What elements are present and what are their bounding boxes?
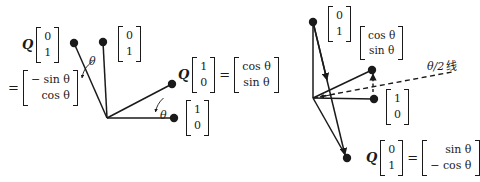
q-e2-column-vector: 0 1 bbox=[36, 27, 59, 63]
half-angle-suffix-text: 线 bbox=[446, 60, 457, 73]
half-angle-line-label: θ/2线 bbox=[427, 60, 457, 72]
left-upper-theta-label: θ bbox=[89, 56, 96, 67]
left-e1-dot bbox=[170, 114, 178, 122]
left-q-e1-equation: Q 1 0 = cos θ sin θ bbox=[178, 57, 279, 93]
equals-sign: = bbox=[407, 151, 418, 164]
left-e2-dot bbox=[99, 38, 107, 46]
right-origin-pointer-arrow bbox=[320, 94, 335, 97]
left-q-e2-label: Q 0 1 bbox=[22, 27, 59, 63]
left-e2-label: 0 1 bbox=[118, 26, 141, 62]
e1-column-vector: 1 0 bbox=[386, 89, 409, 125]
right-q-e2-dot bbox=[343, 154, 351, 162]
q-symbol: Q bbox=[22, 38, 33, 51]
q-symbol: Q bbox=[178, 68, 189, 81]
right-q-e1-result-label: cos θ sin θ bbox=[360, 26, 403, 60]
right-q-e2-equation: Q 0 1 = sin θ − cos θ bbox=[366, 140, 480, 176]
q-e2-column-vector: 0 1 bbox=[380, 140, 403, 176]
left-e2-axis-line bbox=[103, 42, 107, 118]
right-q-e2-line bbox=[313, 98, 347, 158]
q-symbol: Q bbox=[366, 151, 377, 164]
e2-column-vector: 0 1 bbox=[118, 26, 141, 62]
left-e1-label: 1 0 bbox=[186, 100, 209, 136]
right-e2-label: 0 1 bbox=[328, 6, 351, 42]
right-e2-dot bbox=[309, 18, 317, 26]
q-e2-result-vector: sin θ − cos θ bbox=[422, 140, 479, 176]
left-q-e2-result-label: = − sin θ cos θ bbox=[4, 70, 78, 106]
left-q-e1-dot bbox=[168, 80, 176, 88]
q-e1-result-vector: cos θ sin θ bbox=[234, 57, 279, 93]
equals-sign: = bbox=[219, 68, 230, 81]
left-lower-theta-label: θ bbox=[160, 110, 167, 121]
left-q-e2-dot bbox=[70, 39, 78, 47]
q-e1-result-vector: cos θ sin θ bbox=[360, 26, 403, 60]
e1-column-vector: 1 0 bbox=[186, 100, 209, 136]
right-e1-label: 1 0 bbox=[386, 89, 409, 125]
right-q-e1-dot bbox=[368, 66, 376, 74]
right-q-e1-line bbox=[313, 70, 372, 98]
right-e1-dot bbox=[370, 95, 378, 103]
e2-column-vector: 0 1 bbox=[328, 6, 351, 42]
half-angle-text: θ/2 bbox=[427, 60, 444, 73]
equals-sign: = bbox=[8, 81, 19, 94]
q-e2-result-vector: − sin θ cos θ bbox=[23, 70, 78, 106]
q-e1-column-vector: 1 0 bbox=[192, 57, 215, 93]
right-e2-arrow-midhead bbox=[313, 22, 327, 80]
right-e1-axis-line bbox=[313, 98, 374, 99]
